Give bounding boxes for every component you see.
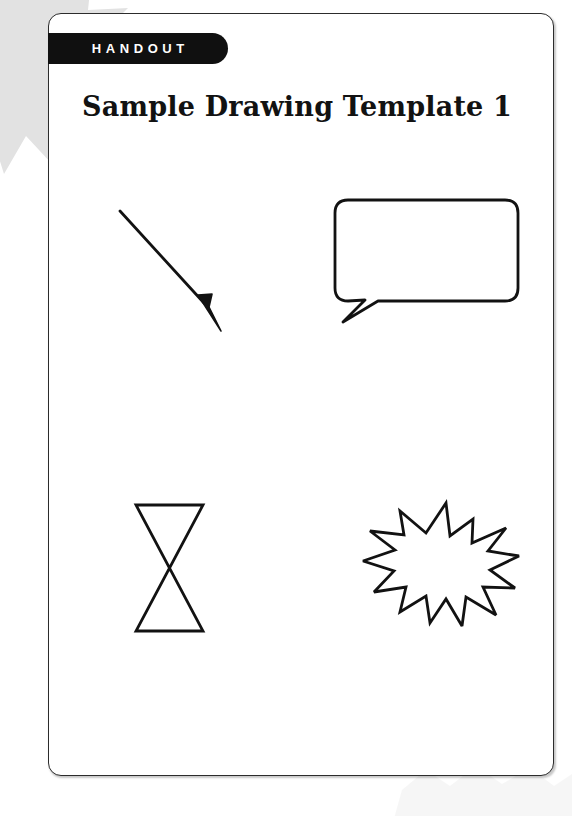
handout-card: [48, 13, 554, 776]
handout-badge-label: HANDOUT: [87, 42, 189, 55]
handout-badge: HANDOUT: [48, 33, 228, 64]
page-title: Sample Drawing Template 1: [82, 92, 512, 122]
